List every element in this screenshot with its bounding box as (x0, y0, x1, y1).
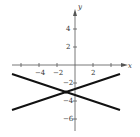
y-tick-label: −2 (63, 79, 73, 87)
y-tick-label: 2 (66, 43, 70, 51)
x-axis-arrow-icon (121, 63, 128, 67)
intersection-point (64, 90, 67, 93)
y-axis-arrow-icon (73, 9, 77, 16)
y-tick-label: 4 (66, 25, 71, 33)
y-tick-label: −6 (63, 115, 74, 123)
graph: −4 −2 2 4 2 −2 −4 −6 x y (0, 0, 140, 137)
x-tick-label: 2 (91, 69, 95, 77)
y-tick-label: −4 (63, 97, 74, 105)
y-axis-label: y (77, 3, 83, 11)
x-tick-label: −2 (53, 69, 63, 77)
x-tick-label: −4 (35, 69, 46, 77)
x-axis-label: x (128, 62, 132, 70)
